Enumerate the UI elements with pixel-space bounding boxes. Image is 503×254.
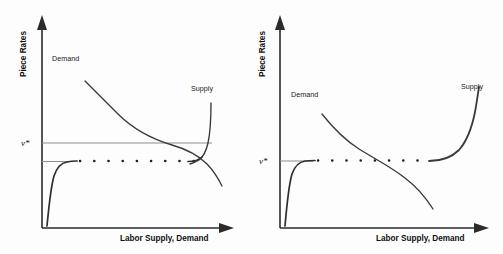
demand-curve bbox=[85, 81, 222, 186]
supply-label: Supply bbox=[191, 84, 213, 93]
chart-svg-left: Demand Supply v* Labor Supply, Demand Pi… bbox=[0, 0, 251, 254]
chart-panel-left: Demand Supply v* Labor Supply, Demand Pi… bbox=[0, 0, 251, 254]
demand-label: Demand bbox=[52, 54, 79, 63]
y-axis-label: Piece Rates bbox=[258, 31, 267, 77]
supply-curve bbox=[190, 103, 211, 164]
supply-curve bbox=[429, 87, 479, 161]
v-star-label: v* bbox=[259, 156, 268, 166]
v-star-label: v* bbox=[21, 138, 30, 148]
y-axis-arrowhead bbox=[275, 15, 285, 30]
labor-supply-curve bbox=[47, 161, 77, 226]
chart-panel-right: Demand Supply v* Labor Supply, Demand Pi… bbox=[251, 0, 502, 254]
supply-label: Supply bbox=[461, 82, 483, 91]
x-axis-label: Labor Supply, Demand bbox=[376, 234, 465, 243]
demand-curve bbox=[322, 114, 433, 209]
x-axis-label: Labor Supply, Demand bbox=[120, 234, 209, 243]
x-axis-arrowhead bbox=[219, 223, 234, 233]
labor-supply-curve bbox=[285, 161, 315, 227]
chart-svg-right: Demand Supply v* Labor Supply, Demand Pi… bbox=[251, 0, 502, 254]
y-axis-label: Piece Rates bbox=[19, 31, 28, 77]
economics-figure: Demand Supply v* Labor Supply, Demand Pi… bbox=[0, 0, 503, 254]
y-axis-arrowhead bbox=[37, 15, 47, 30]
demand-label: Demand bbox=[291, 90, 318, 99]
x-axis-arrowhead bbox=[474, 223, 489, 233]
